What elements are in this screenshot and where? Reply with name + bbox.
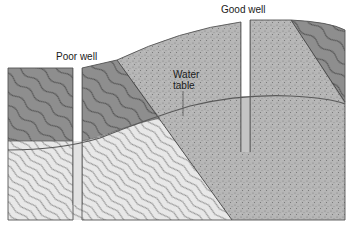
water-table-label-line2: table xyxy=(173,80,195,91)
ground-layers xyxy=(0,0,358,225)
good-well-wet-section xyxy=(241,96,250,152)
good-well-label: Good well xyxy=(221,4,265,15)
water-table-label-line1: Water xyxy=(173,69,199,80)
poor-well-wet-section xyxy=(73,141,82,205)
poor-well-label: Poor well xyxy=(56,51,97,62)
poor-well-dry-section xyxy=(73,60,82,141)
groundwater-cross-section-diagram xyxy=(0,0,358,225)
good-well-dry-section xyxy=(241,18,250,96)
